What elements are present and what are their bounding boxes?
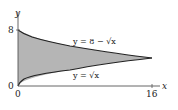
lower-curve-label: y = √x	[72, 71, 99, 80]
y-tick-label-8: 8	[8, 25, 14, 35]
x-tick-label-0: 0	[15, 89, 21, 99]
chart-canvas: y x 8 0 0 16 y = 8 − √x y = √x	[0, 0, 178, 110]
x-tick-label-16: 16	[146, 89, 158, 99]
y-axis-label: y	[14, 8, 21, 18]
x-axis-label: x	[162, 81, 167, 91]
upper-curve-label: y = 8 − √x	[72, 37, 116, 46]
y-tick-label-0: 0	[8, 81, 14, 91]
